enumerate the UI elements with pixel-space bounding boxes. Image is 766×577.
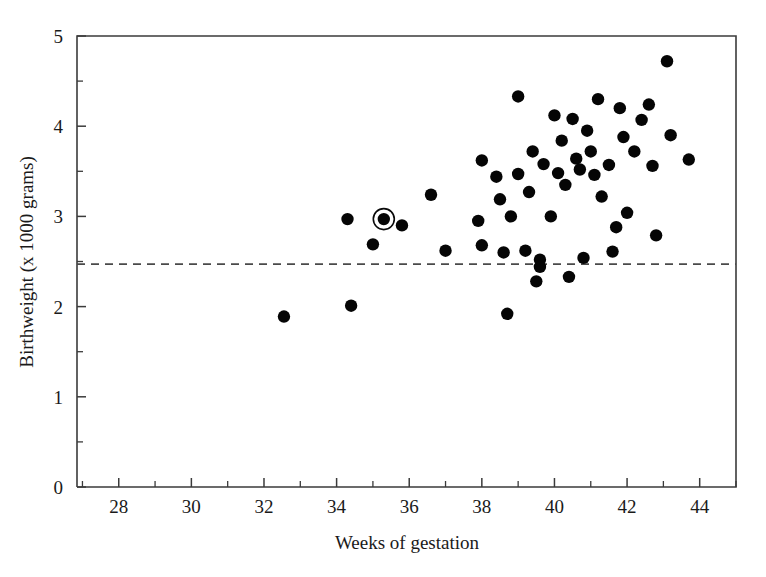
data-point xyxy=(628,145,640,157)
data-point xyxy=(341,213,353,225)
data-point xyxy=(566,113,578,125)
y-tick-label: 5 xyxy=(54,26,64,47)
scatter-plot-figure: 283032343638404244 012345 Weeks of gesta… xyxy=(0,0,766,577)
data-point xyxy=(635,114,647,126)
data-point xyxy=(574,163,586,175)
data-point xyxy=(367,238,379,250)
data-point xyxy=(501,308,513,320)
data-point xyxy=(570,152,582,164)
x-axis-ticks xyxy=(82,478,736,487)
data-point xyxy=(650,229,662,241)
data-point xyxy=(621,207,633,219)
data-point xyxy=(494,193,506,205)
data-point xyxy=(606,245,618,257)
data-point xyxy=(497,246,509,258)
data-point xyxy=(577,252,589,264)
data-point xyxy=(548,109,560,121)
plot-canvas: 283032343638404244 012345 Weeks of gesta… xyxy=(0,0,766,577)
x-tick-label: 40 xyxy=(545,496,564,517)
y-tick-label: 3 xyxy=(54,206,64,227)
data-point xyxy=(559,179,571,191)
y-axis-tick-labels: 012345 xyxy=(54,26,64,498)
data-point xyxy=(476,239,488,251)
y-axis-title: Birthweight (x 1000 grams) xyxy=(16,156,38,368)
data-point xyxy=(610,221,622,233)
data-point xyxy=(425,189,437,201)
data-point xyxy=(664,129,676,141)
data-point xyxy=(617,131,629,143)
data-point xyxy=(345,299,357,311)
data-point xyxy=(490,171,502,183)
data-point xyxy=(585,145,597,157)
data-point xyxy=(643,98,655,110)
data-point xyxy=(505,210,517,222)
data-point xyxy=(545,210,557,222)
data-point xyxy=(523,186,535,198)
plot-frame xyxy=(77,36,736,487)
data-point xyxy=(646,160,658,172)
x-tick-label: 38 xyxy=(472,496,491,517)
data-point xyxy=(476,154,488,166)
x-tick-label: 28 xyxy=(109,496,128,517)
x-tick-label: 30 xyxy=(182,496,201,517)
data-point xyxy=(552,167,564,179)
data-point xyxy=(526,145,538,157)
data-point xyxy=(661,55,673,67)
data-point xyxy=(512,90,524,102)
data-point xyxy=(588,169,600,181)
y-tick-label: 0 xyxy=(54,477,64,498)
x-tick-label: 36 xyxy=(400,496,419,517)
data-point xyxy=(439,244,451,256)
data-point xyxy=(592,93,604,105)
x-tick-label: 34 xyxy=(327,496,347,517)
x-tick-label: 42 xyxy=(618,496,637,517)
y-tick-label: 1 xyxy=(54,387,64,408)
data-point xyxy=(534,261,546,273)
data-point xyxy=(556,134,568,146)
data-point xyxy=(396,219,408,231)
data-point xyxy=(581,125,593,137)
x-tick-label: 32 xyxy=(254,496,273,517)
y-tick-label: 2 xyxy=(54,297,64,318)
data-point xyxy=(683,153,695,165)
data-point xyxy=(472,215,484,227)
x-axis-tick-labels: 283032343638404244 xyxy=(109,496,709,517)
data-point xyxy=(563,271,575,283)
data-point xyxy=(378,213,390,225)
data-points-group xyxy=(278,55,695,323)
data-point xyxy=(614,102,626,114)
x-tick-label: 44 xyxy=(690,496,710,517)
data-point xyxy=(530,275,542,287)
y-tick-label: 4 xyxy=(54,116,64,137)
data-point xyxy=(537,158,549,170)
x-axis-title: Weeks of gestation xyxy=(335,532,480,553)
y-axis-ticks xyxy=(77,36,86,487)
data-point xyxy=(519,244,531,256)
data-point xyxy=(595,190,607,202)
data-point xyxy=(512,168,524,180)
data-point xyxy=(603,159,615,171)
axes-frame xyxy=(77,36,736,487)
data-point xyxy=(278,310,290,322)
